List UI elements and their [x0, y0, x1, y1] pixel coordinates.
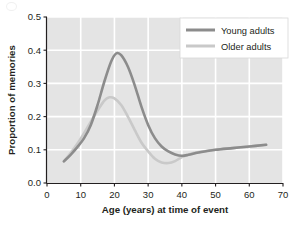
y-tick-label: 0.0 [28, 177, 41, 188]
x-tick-label: 40 [177, 189, 188, 200]
legend-label-older-adults: Older adults [221, 42, 271, 52]
x-axis-ticks: 010203040506070 [44, 183, 288, 200]
x-axis-title: Age (years) at time of event [102, 204, 229, 215]
legend-label-young-adults: Young adults [221, 26, 275, 36]
x-tick-label: 30 [143, 189, 154, 200]
x-tick-label: 70 [278, 189, 289, 200]
y-tick-label: 0.4 [28, 45, 41, 56]
y-tick-label: 0.2 [28, 111, 41, 122]
x-tick-label: 0 [44, 189, 49, 200]
memory-proportion-line-chart: 010203040506070 0.00.10.20.30.40.5 Age (… [0, 0, 292, 226]
y-tick-label: 0.5 [28, 11, 41, 22]
chart-legend[interactable]: Young adults Older adults [180, 18, 288, 58]
chart-figure: 010203040506070 0.00.10.20.30.40.5 Age (… [0, 0, 292, 226]
x-tick-label: 10 [75, 189, 86, 200]
corner-artifact [6, 2, 17, 11]
y-tick-label: 0.3 [28, 78, 41, 89]
x-tick-label: 20 [109, 189, 120, 200]
y-axis-ticks: 0.00.10.20.30.40.5 [28, 11, 47, 188]
x-tick-label: 60 [244, 189, 255, 200]
legend-box [180, 18, 288, 58]
y-axis-title: Proportion of memories [6, 45, 17, 155]
x-tick-label: 50 [210, 189, 221, 200]
y-tick-label: 0.1 [28, 144, 41, 155]
